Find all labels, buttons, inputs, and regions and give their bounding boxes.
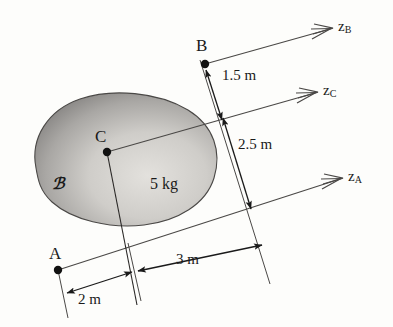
dimension-line-2m [67, 272, 132, 293]
axis-line-zB [205, 24, 333, 64]
figure-root: A B C ℬ 5 kg zB zC zA 1.5 m 2.5 m 2 m 3 … [0, 0, 393, 327]
body-name-label: ℬ [52, 176, 65, 192]
dimension-label-2m: 2 m [78, 292, 101, 307]
axis-label-zA: zA [348, 169, 362, 185]
dimension-line-2-5m [223, 118, 251, 209]
dimension-line-3m [138, 245, 262, 271]
axis-label-zA-sub: A [355, 174, 362, 185]
point-label-C: C [95, 128, 106, 145]
point-label-B: B [196, 37, 207, 54]
point-marker-B [201, 60, 209, 68]
axis-label-zC: zC [323, 83, 336, 99]
dimension-line-1-5m [206, 70, 222, 120]
axis-label-zB-main: z [338, 18, 345, 34]
body-mass-label: 5 kg [150, 176, 178, 192]
dimension-label-2-5m: 2.5 m [238, 137, 272, 152]
axis-label-zA-main: z [348, 168, 355, 184]
axis-label-zB-sub: B [345, 24, 352, 35]
point-marker-A [54, 266, 62, 274]
rigid-body-shape [35, 93, 217, 226]
dimension-label-1-5m: 1.5 m [222, 68, 256, 83]
dimension-label-3m: 3 m [176, 252, 199, 267]
axis-label-zC-main: z [323, 82, 330, 98]
point-marker-C [103, 148, 111, 156]
point-label-A: A [49, 245, 61, 262]
axis-label-zC-sub: C [330, 88, 337, 99]
axis-label-zB: zB [338, 19, 351, 35]
